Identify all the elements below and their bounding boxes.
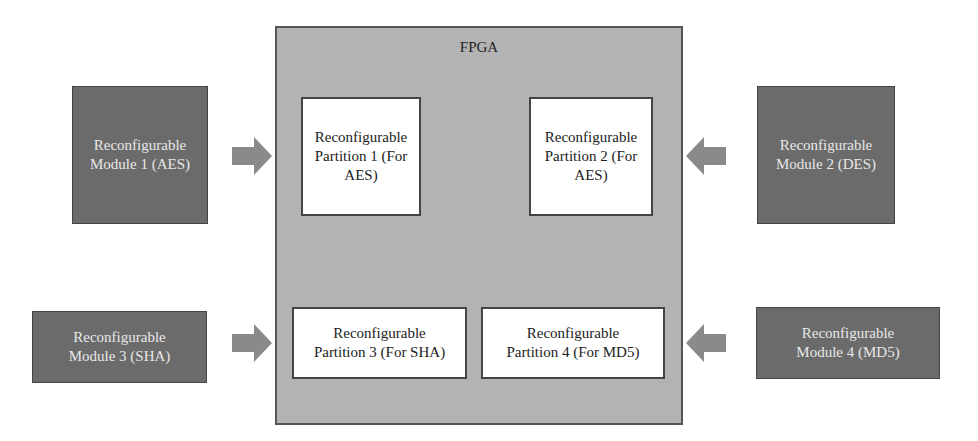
partition-4-label: Reconfigurable Partition 4 (For MD5) [507, 324, 640, 362]
partition-3-label: Reconfigurable Partition 3 (For SHA) [314, 324, 445, 362]
fpga-title: FPGA [277, 38, 681, 57]
arrow-left-icon [686, 136, 726, 176]
arrow-right-icon [232, 136, 272, 176]
partition-3: Reconfigurable Partition 3 (For SHA) [292, 307, 467, 379]
module-3: Reconfigurable Module 3 (SHA) [32, 311, 207, 383]
module-4: Reconfigurable Module 4 (MD5) [756, 307, 940, 379]
module-1-label: Reconfigurable Module 1 (AES) [90, 136, 190, 174]
arrow-right-icon [232, 323, 272, 363]
partition-2: Reconfigurable Partition 2 (For AES) [529, 97, 653, 216]
arrow-left-icon [686, 323, 726, 363]
module-4-label: Reconfigurable Module 4 (MD5) [796, 324, 899, 362]
partition-2-label: Reconfigurable Partition 2 (For AES) [545, 128, 638, 185]
module-2: Reconfigurable Module 2 (DES) [757, 86, 895, 224]
partition-1: Reconfigurable Partition 1 (For AES) [301, 97, 421, 216]
module-1: Reconfigurable Module 1 (AES) [72, 86, 208, 224]
module-3-label: Reconfigurable Module 3 (SHA) [69, 328, 171, 366]
partition-1-label: Reconfigurable Partition 1 (For AES) [315, 128, 408, 185]
partition-4: Reconfigurable Partition 4 (For MD5) [481, 307, 665, 379]
module-2-label: Reconfigurable Module 2 (DES) [776, 136, 876, 174]
